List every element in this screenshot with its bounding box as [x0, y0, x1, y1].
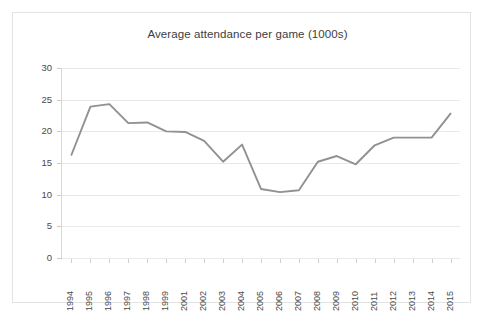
- series-line-layer: [0, 0, 495, 321]
- attendance-series-line: [71, 104, 450, 192]
- chart-figure: Average attendance per game (1000s) 0510…: [0, 0, 495, 321]
